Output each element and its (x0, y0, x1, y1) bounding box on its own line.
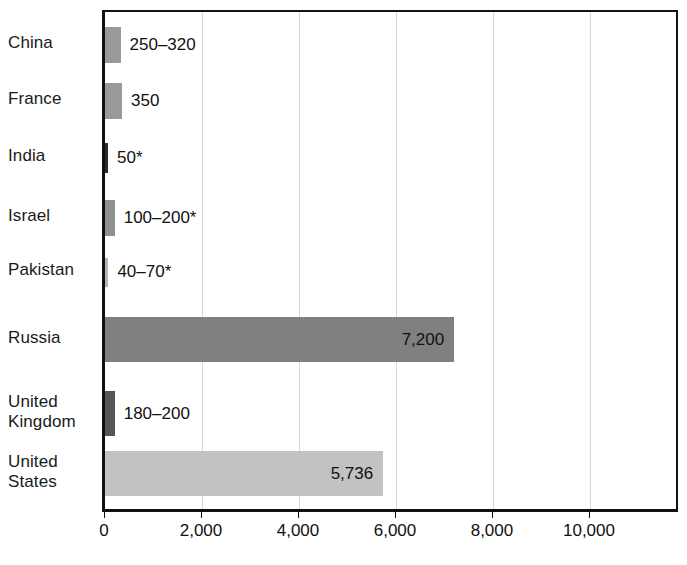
bar-row[interactable]: 40–70* (105, 258, 676, 288)
bar-series: 250–32035050*100–200*40–70*7,200180–2005… (105, 12, 676, 509)
category-label-united-states: United States (8, 452, 100, 492)
bar-row[interactable]: 5,736 (105, 451, 676, 496)
plot-area: 250–32035050*100–200*40–70*7,200180–2005… (102, 10, 678, 512)
bar-row[interactable]: 100–200* (105, 200, 676, 236)
bar-value-label: 50* (117, 148, 143, 168)
x-tick-0 (104, 509, 105, 518)
bar-value-label: 7,200 (402, 330, 445, 350)
category-label-pakistan: Pakistan (8, 260, 100, 280)
bar-row[interactable]: 350 (105, 83, 676, 119)
bar-value-label: 100–200* (124, 208, 197, 228)
bar[interactable] (105, 83, 122, 119)
category-label-israel: Israel (8, 206, 100, 226)
bar-value-label: 40–70* (117, 262, 171, 282)
category-label-france: France (8, 89, 100, 109)
x-tick-8000 (492, 509, 493, 518)
bar-row[interactable]: 50* (105, 143, 676, 173)
x-tick-label-2000: 2,000 (180, 521, 223, 541)
bar-value-label: 180–200 (124, 404, 190, 424)
bar-value-label: 5,736 (331, 464, 374, 484)
category-label-china: China (8, 33, 100, 53)
x-tick-6000 (395, 509, 396, 518)
x-tick-4000 (298, 509, 299, 518)
bar[interactable] (105, 27, 121, 63)
bar[interactable] (105, 200, 115, 236)
category-label-united-kingdom: United Kingdom (8, 392, 100, 432)
bar-value-label: 350 (131, 91, 159, 111)
x-tick-10000 (589, 509, 590, 518)
x-tick-label-6000: 6,000 (374, 521, 417, 541)
x-tick-label-8000: 8,000 (471, 521, 514, 541)
category-label-russia: Russia (8, 328, 100, 348)
x-tick-label-0: 0 (99, 521, 108, 541)
category-axis-labels: China France India Israel Pakistan Russi… (0, 0, 102, 512)
bar-row[interactable]: 7,200 (105, 317, 676, 362)
bar-row[interactable]: 180–200 (105, 391, 676, 436)
x-tick-label-10000: 10,000 (563, 521, 615, 541)
bar[interactable] (105, 391, 115, 436)
bar-value-label: 250–320 (130, 35, 196, 55)
x-tick-2000 (201, 509, 202, 518)
x-tick-label-4000: 4,000 (277, 521, 320, 541)
x-axis: 02,0004,0006,0008,00010,000 (102, 509, 680, 565)
bar-row[interactable]: 250–320 (105, 27, 676, 63)
category-label-india: India (8, 146, 100, 166)
bar[interactable] (105, 258, 108, 288)
bar-chart: China France India Israel Pakistan Russi… (0, 0, 687, 565)
bar[interactable] (105, 143, 108, 173)
